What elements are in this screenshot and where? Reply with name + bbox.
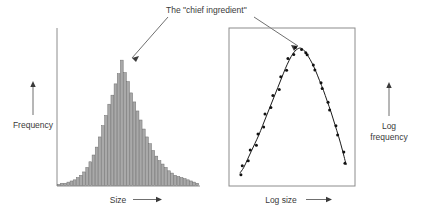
loglog-data-point: [278, 88, 281, 91]
loglog-data-point: [336, 134, 339, 137]
histogram-bar: [120, 60, 123, 185]
histogram-bar: [127, 82, 130, 186]
loglog-data-point: [269, 106, 272, 109]
histogram-bar: [89, 162, 92, 186]
right-chart-frame: [229, 28, 355, 186]
histogram-bar: [108, 104, 111, 185]
histogram-bar: [105, 115, 108, 185]
left-panel-histogram: Frequency Size: [13, 28, 200, 205]
histogram-bar: [133, 102, 136, 186]
histogram-bar: [95, 147, 98, 185]
loglog-data-point: [264, 113, 267, 116]
histogram-bar: [83, 172, 86, 186]
size-axis-arrow-head: [156, 197, 162, 202]
histogram-bar: [114, 84, 117, 186]
annotation-leader-right: [254, 17, 298, 46]
loglog-data-point: [292, 53, 295, 56]
loglog-data-point: [286, 57, 289, 60]
histogram-bar: [171, 173, 174, 185]
histogram-bar: [180, 178, 183, 186]
histogram-bar: [136, 111, 139, 186]
loglog-data-point: [306, 53, 309, 56]
histogram-bar: [158, 161, 161, 186]
loglog-data-point: [294, 46, 297, 49]
histogram-bar: [193, 182, 196, 185]
histogram-bar: [61, 183, 64, 185]
histogram-bar: [117, 74, 120, 186]
histogram-bar: [58, 184, 61, 185]
loglog-data-point: [313, 68, 316, 71]
histogram-bar: [174, 175, 177, 185]
histogram-bar: [124, 73, 127, 186]
left-chart-ylabel-group: Frequency: [13, 81, 54, 130]
chief-ingredient-annotation: The "chief ingredient": [132, 5, 298, 62]
histogram-bar: [64, 183, 67, 185]
loglog-data-point: [247, 159, 250, 162]
histogram-bar: [168, 171, 171, 186]
histogram-bar: [155, 156, 158, 185]
loglog-data-markers: [239, 46, 346, 176]
histogram-bar: [102, 126, 105, 186]
loglog-data-point: [320, 81, 323, 84]
loglog-data-point: [255, 144, 258, 147]
loglog-data-point: [257, 133, 260, 136]
histogram-bar: [80, 175, 83, 185]
loglog-data-point: [279, 75, 282, 78]
histogram-bar: [190, 181, 193, 186]
figure-canvas: The "chief ingredient" Frequency Si: [0, 0, 424, 216]
loglog-data-point: [343, 162, 346, 165]
loglog-data-point: [328, 109, 331, 112]
histogram-bar: [142, 129, 145, 185]
right-chart-ylabel-line1: Log: [382, 121, 396, 131]
histogram-bar: [67, 182, 70, 185]
histogram-bar: [139, 120, 142, 185]
loglog-data-point: [342, 151, 345, 154]
histogram-bar: [111, 95, 114, 185]
loglog-data-point: [334, 124, 337, 127]
histogram-bar: [76, 178, 79, 186]
histogram-bar: [152, 151, 155, 186]
right-chart-xlabel: Log size: [265, 195, 297, 205]
right-chart-ylabel-group: Log frequency: [370, 82, 408, 142]
log-frequency-axis-arrow-head: [386, 82, 391, 88]
histogram-bar: [183, 179, 186, 186]
histogram-bar: [146, 137, 149, 186]
loglog-data-point: [285, 69, 288, 72]
loglog-data-point: [321, 87, 324, 90]
right-chart-ylabel-line2: frequency: [370, 132, 408, 142]
frequency-axis-arrow-head: [30, 81, 35, 87]
histogram-bar: [177, 176, 180, 185]
histogram-bar: [98, 137, 101, 186]
right-chart-xlabel-group: Log size: [265, 195, 332, 205]
loglog-data-point: [262, 126, 265, 129]
histogram-bar: [161, 164, 164, 185]
histogram-bar: [73, 180, 76, 186]
left-chart-xlabel: Size: [110, 195, 127, 205]
histogram-bar: [92, 155, 95, 185]
loglog-data-point: [312, 63, 315, 66]
histogram-bar: [86, 167, 89, 185]
annotation-label: The "chief ingredient": [166, 5, 247, 15]
right-panel-loglog: Log frequency Log size: [229, 28, 408, 205]
log-size-axis-arrow-head: [326, 197, 332, 202]
histogram-bar: [196, 183, 199, 185]
loglog-data-point: [300, 48, 303, 51]
loglog-data-point: [239, 173, 242, 176]
histogram-bar: [186, 180, 189, 186]
loglog-data-point: [249, 149, 252, 152]
loglog-data-point: [327, 101, 330, 104]
histogram-bars: [58, 60, 199, 185]
histogram-bar: [70, 181, 73, 186]
loglog-data-point: [271, 94, 274, 97]
histogram-bar: [130, 93, 133, 186]
loglog-data-point: [241, 164, 244, 167]
left-chart-xlabel-group: Size: [110, 195, 162, 205]
annotation-leader-left: [132, 17, 168, 58]
left-chart-ylabel: Frequency: [13, 120, 54, 130]
histogram-bar: [164, 167, 167, 185]
figure-container: The "chief ingredient" Frequency Si: [0, 0, 424, 216]
histogram-bar: [149, 144, 152, 186]
